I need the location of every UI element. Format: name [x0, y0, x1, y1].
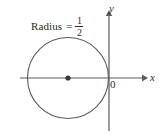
circle-center-point: [65, 75, 70, 80]
x-axis-arrow-icon: [142, 75, 148, 82]
origin-label: 0: [110, 79, 116, 90]
radius-annotation: Radius = 1 2: [31, 16, 83, 37]
fraction-numerator: 1: [76, 16, 83, 25]
circle-diagram: Radius = 1 2 y x 0: [0, 0, 163, 139]
x-axis-label: x: [150, 72, 155, 83]
radius-word: Radius: [31, 21, 62, 32]
fraction-one-half: 1 2: [75, 16, 83, 37]
fraction-denominator: 2: [76, 28, 83, 37]
y-axis-label: y: [109, 3, 114, 14]
equals-sign: =: [66, 21, 72, 32]
